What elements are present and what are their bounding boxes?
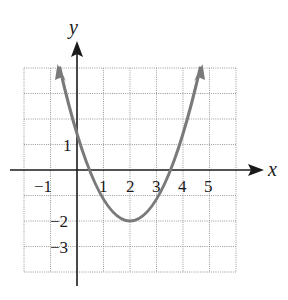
axes	[10, 52, 252, 286]
x-tick-label: 2	[126, 177, 135, 196]
x-tick-label: 5	[204, 177, 213, 196]
y-tick-label: −3	[50, 238, 68, 257]
y-tick-label: −2	[50, 212, 68, 231]
y-tick-label: 1	[63, 136, 72, 155]
x-tick-label: 4	[178, 177, 187, 196]
y-axis-label: y	[67, 16, 78, 39]
x-axis-label: x	[267, 158, 277, 180]
parabola-graph: x y −1 1 2 3 4 5 1 −2 −3	[0, 0, 288, 300]
curve-left-arrow-icon	[55, 64, 66, 81]
curve-right-arrow-icon	[194, 64, 205, 81]
x-tick-label: −1	[34, 177, 52, 196]
